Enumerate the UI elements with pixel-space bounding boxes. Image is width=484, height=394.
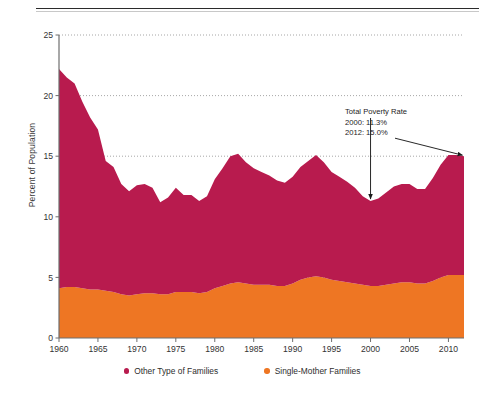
x-tick-label: 1965 <box>88 344 107 354</box>
x-tick-label: 1985 <box>244 344 263 354</box>
annotation-line: Total Poverty Rate <box>345 107 407 116</box>
area-chart: 0510152025 19601965197019751980198519901… <box>0 0 484 366</box>
legend-label: Other Type of Families <box>134 366 218 376</box>
annotation-line: 2012: 15.0% <box>345 128 388 137</box>
header-rule-secondary <box>36 11 479 12</box>
legend-swatch-icon <box>264 368 270 374</box>
y-tick-label: 10 <box>43 212 53 222</box>
x-axis-ticks: 1960196519701975198019851990199520002005… <box>49 338 458 354</box>
y-axis-title: Percent of Population <box>27 95 37 235</box>
legend-swatch-icon <box>124 368 130 374</box>
x-tick-label: 2010 <box>439 344 458 354</box>
x-tick-label: 1990 <box>283 344 302 354</box>
legend-item-single-mother-families: Single-Mother Families <box>264 366 360 376</box>
y-tick-label: 20 <box>43 91 53 101</box>
header-rule <box>36 8 479 9</box>
y-axis-ticks: 0510152025 <box>43 30 59 343</box>
x-tick-label: 2000 <box>361 344 380 354</box>
figure: Percent of Population 0510152025 1960196… <box>0 0 484 394</box>
annotation-line: 2000: 11.3% <box>345 118 387 127</box>
legend-item-other-type-of-families: Other Type of Families <box>124 366 219 376</box>
y-tick-label: 25 <box>43 30 53 40</box>
y-tick-label: 0 <box>48 333 53 343</box>
x-tick-label: 1995 <box>322 344 341 354</box>
y-tick-label: 15 <box>43 151 53 161</box>
x-tick-label: 2005 <box>400 344 419 354</box>
x-tick-label: 1975 <box>166 344 185 354</box>
chart-legend: Other Type of Families Single-Mother Fam… <box>0 366 484 376</box>
y-tick-label: 5 <box>48 273 53 283</box>
x-tick-label: 1960 <box>49 344 68 354</box>
x-tick-label: 1980 <box>205 344 224 354</box>
x-tick-label: 1970 <box>127 344 146 354</box>
legend-label: Single-Mother Families <box>275 366 361 376</box>
